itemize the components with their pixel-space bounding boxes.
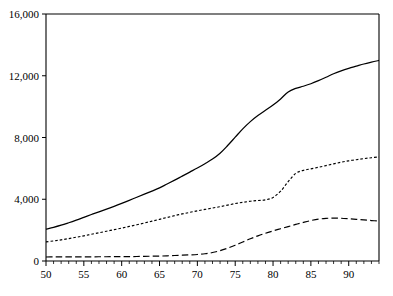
- line-chart-canvas: 04,0008,00012,00016,00050556065707580859…: [0, 0, 393, 296]
- series-group: [46, 60, 379, 257]
- x-tick-label: 60: [116, 268, 128, 280]
- y-tick-label: 16,000: [9, 8, 40, 20]
- x-tick-label: 85: [305, 268, 317, 280]
- series-line-solid: [46, 60, 379, 229]
- series-line-dotted: [46, 157, 379, 242]
- y-tick-label: 4,000: [14, 193, 39, 205]
- x-tick-label: 90: [343, 268, 355, 280]
- plot-frame: [46, 14, 379, 261]
- series-line-dashed: [46, 218, 379, 257]
- chart-figure: 04,0008,00012,00016,00050556065707580859…: [0, 0, 393, 296]
- y-axis: 04,0008,00012,00016,000: [9, 8, 46, 267]
- x-tick-label: 75: [230, 268, 242, 280]
- y-tick-label: 0: [34, 255, 40, 267]
- x-tick-label: 80: [268, 268, 280, 280]
- y-tick-label: 8,000: [14, 132, 39, 144]
- x-tick-label: 55: [78, 268, 90, 280]
- y-tick-label: 12,000: [9, 70, 40, 82]
- x-tick-label: 50: [41, 268, 53, 280]
- x-tick-label: 70: [192, 268, 204, 280]
- x-tick-label: 65: [154, 268, 166, 280]
- x-axis: 505560657075808590: [41, 261, 380, 280]
